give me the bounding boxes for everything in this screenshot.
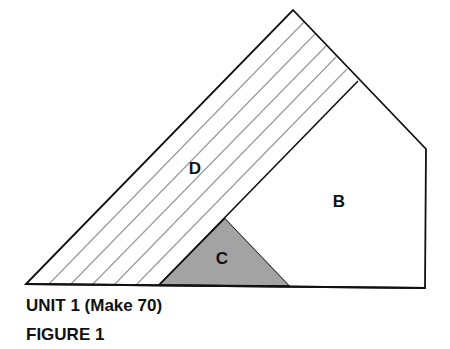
piece-label-b: B xyxy=(333,192,345,211)
figure-caption: FIGURE 1 xyxy=(26,325,104,345)
unit-caption: UNIT 1 (Make 70) xyxy=(26,296,162,316)
piece-label-d: D xyxy=(189,159,201,178)
piece-label-c: C xyxy=(216,249,228,268)
